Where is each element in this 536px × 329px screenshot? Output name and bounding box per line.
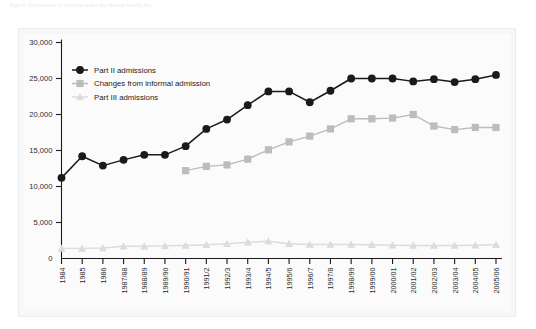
y-axis-label: 0: [48, 254, 52, 263]
x-axis-label: 1992/3: [223, 267, 232, 289]
data-point-marker: [120, 156, 128, 164]
x-axis-label: 2000/01: [389, 268, 398, 294]
x-axis-label: 1989/90: [161, 268, 170, 294]
y-axis-label: 20,000: [29, 110, 52, 119]
x-axis-label: 1991/2: [202, 267, 211, 289]
data-point-marker: [430, 122, 437, 129]
data-point-marker: [203, 163, 210, 170]
data-point-marker: [451, 78, 459, 86]
data-point-marker: [182, 167, 189, 174]
legend-label-1: Part II admissions: [94, 66, 156, 75]
x-axis-label: 1987/88: [120, 268, 129, 294]
x-axis-label: 1986: [99, 268, 108, 284]
x-axis-label: 2002/03: [430, 268, 439, 294]
data-point-marker: [410, 111, 417, 118]
x-axis-label: 1990/91: [182, 268, 191, 294]
data-point-marker: [348, 115, 355, 122]
y-axis-label: 15,000: [29, 146, 52, 155]
data-point-marker: [78, 152, 86, 160]
data-point-marker: [182, 142, 190, 150]
x-axis-label: 2004/05: [471, 268, 480, 294]
data-point-marker: [327, 87, 335, 95]
y-axis-label: 10,000: [29, 182, 52, 191]
x-axis-label: 1994/5: [264, 267, 273, 289]
series-3: [58, 237, 501, 251]
y-axis-label: 5,000: [33, 218, 52, 227]
data-point-marker: [58, 174, 66, 182]
data-point-marker: [389, 75, 397, 83]
data-point-marker: [285, 138, 292, 145]
data-point-marker: [161, 151, 169, 159]
x-axis-label: 2001/02: [409, 268, 418, 294]
data-point-marker: [265, 88, 273, 96]
legend-label-2: Changes from informal admission: [94, 79, 210, 88]
x-axis-label: 1995/6: [285, 267, 294, 289]
data-point-marker: [76, 80, 83, 87]
x-axis-label: 2005/06: [492, 268, 501, 294]
x-axis-label: 2003/04: [451, 268, 460, 294]
x-axis-label: 1988/89: [140, 268, 149, 294]
data-point-marker: [223, 116, 231, 124]
y-axis-label: 30,000: [29, 38, 52, 47]
data-point-marker: [471, 75, 479, 83]
data-point-marker: [430, 75, 438, 83]
data-point-marker: [306, 133, 313, 140]
figure-container: Figure: Admissions to hospital under the…: [0, 0, 536, 329]
data-point-marker: [368, 75, 376, 83]
data-point-marker: [99, 162, 107, 170]
data-point-marker: [472, 124, 479, 131]
data-point-marker: [368, 115, 375, 122]
data-point-marker: [306, 98, 314, 106]
x-axis-label: 1993/4: [244, 267, 253, 289]
x-axis-label: 1997/8: [326, 267, 335, 289]
data-point-marker: [244, 101, 252, 109]
data-point-marker: [140, 151, 148, 159]
data-point-marker: [76, 66, 84, 74]
x-axis-label: 1996/7: [306, 267, 315, 289]
data-point-marker: [285, 88, 293, 96]
x-axis-label: 1985: [78, 268, 87, 284]
data-point-marker: [389, 115, 396, 122]
data-point-marker: [492, 71, 500, 79]
data-point-marker: [265, 146, 272, 153]
y-axis-label: 25,000: [29, 74, 52, 83]
data-point-marker: [451, 126, 458, 133]
x-axis-label: 1984: [58, 268, 67, 284]
data-point-marker: [223, 161, 230, 168]
chart-legend: Part II admissionsChanges from informal …: [72, 66, 210, 102]
data-point-marker: [492, 124, 499, 131]
series-line: [186, 115, 496, 171]
x-axis-label: 1999/00: [368, 268, 377, 294]
data-point-marker: [347, 75, 355, 83]
line-chart: 05,00010,00015,00020,00025,00030,0001984…: [0, 0, 536, 329]
data-point-marker: [327, 125, 334, 132]
legend-label-3: Part III admissions: [94, 93, 158, 102]
data-point-marker: [202, 125, 210, 133]
x-axis-label: 1998/99: [347, 268, 356, 294]
data-point-marker: [409, 77, 417, 85]
data-point-marker: [244, 156, 251, 163]
